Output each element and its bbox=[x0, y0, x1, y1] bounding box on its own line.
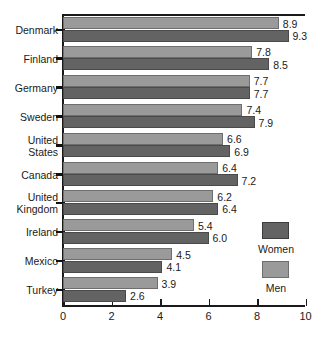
bar-men bbox=[63, 17, 279, 29]
bar-men bbox=[63, 219, 194, 231]
bar-group: Finland7.88.5 bbox=[0, 46, 324, 75]
category-label: Turkey bbox=[0, 284, 58, 296]
legend-swatch-men bbox=[262, 261, 289, 278]
category-label: Denmark bbox=[0, 24, 58, 36]
bar-value-women: 2.6 bbox=[130, 290, 145, 302]
bar-women bbox=[63, 261, 162, 273]
plot-top-border bbox=[62, 14, 305, 16]
bar-group: Germany7.77.7 bbox=[0, 75, 324, 104]
bar-women bbox=[63, 232, 209, 244]
bar-group: Canada6.47.2 bbox=[0, 162, 324, 191]
category-label: Germany bbox=[0, 82, 58, 94]
bar-men bbox=[63, 190, 213, 202]
bar-men bbox=[63, 75, 250, 87]
bar-value-women: 7.7 bbox=[254, 88, 269, 100]
bar-value-women: 6.0 bbox=[213, 232, 228, 244]
bar-group: United Kingdom6.26.4 bbox=[0, 190, 324, 219]
bar-value-women: 7.2 bbox=[242, 175, 257, 187]
bar-value-women: 9.3 bbox=[293, 30, 308, 42]
x-tick-label-6: 6 bbox=[194, 310, 224, 323]
category-label: Sweden bbox=[0, 111, 58, 123]
bar-men bbox=[63, 104, 242, 116]
x-tick-label-4: 4 bbox=[145, 310, 175, 323]
bar-women bbox=[63, 58, 269, 70]
bar-group: Sweden7.47.9 bbox=[0, 104, 324, 133]
bar-women bbox=[63, 290, 126, 302]
bar-men bbox=[63, 248, 172, 260]
bar-women bbox=[63, 116, 255, 128]
bar-value-men: 7.8 bbox=[256, 46, 271, 58]
bar-value-men: 8.9 bbox=[283, 18, 298, 30]
bar-value-women: 4.1 bbox=[166, 261, 181, 273]
bar-value-men: 5.4 bbox=[198, 220, 213, 232]
bar-value-men: 6.2 bbox=[217, 191, 232, 203]
legend-label-men: Men bbox=[251, 282, 301, 294]
bar-group: Denmark8.99.3 bbox=[0, 17, 324, 46]
bar-women bbox=[63, 30, 289, 42]
bar-value-men: 3.9 bbox=[162, 278, 177, 290]
bar-men bbox=[63, 46, 252, 58]
bar-value-women: 7.9 bbox=[259, 117, 274, 129]
bar-value-women: 6.4 bbox=[222, 203, 237, 215]
category-label: Canada bbox=[0, 169, 58, 181]
x-tick-label-0: 0 bbox=[48, 310, 78, 323]
x-tick-label-2: 2 bbox=[97, 310, 127, 323]
x-tick-label-10: 10 bbox=[291, 310, 321, 323]
bar-women bbox=[63, 203, 218, 215]
bar-value-men: 4.5 bbox=[176, 249, 191, 261]
bar-value-men: 6.6 bbox=[227, 133, 242, 145]
bar-women bbox=[63, 145, 230, 157]
bar-value-women: 8.5 bbox=[273, 59, 288, 71]
bar-women bbox=[63, 174, 238, 186]
bar-value-men: 6.4 bbox=[222, 162, 237, 174]
category-label: United States bbox=[0, 134, 58, 158]
bar-men bbox=[63, 162, 218, 174]
legend-label-women: Women bbox=[251, 243, 301, 255]
legend-swatch-women bbox=[262, 222, 289, 239]
bar-value-women: 6.9 bbox=[234, 146, 249, 158]
bar-men bbox=[63, 133, 223, 145]
category-label: Mexico bbox=[0, 255, 58, 267]
bar-men bbox=[63, 277, 158, 289]
x-tick-label-8: 8 bbox=[242, 310, 272, 323]
bar-women bbox=[63, 87, 250, 99]
category-label: Finland bbox=[0, 53, 58, 65]
bar-value-men: 7.7 bbox=[254, 75, 269, 87]
category-label: Ireland bbox=[0, 226, 58, 238]
category-label: United Kingdom bbox=[0, 191, 58, 215]
bar-value-men: 7.4 bbox=[246, 104, 261, 116]
bar-chart: 0246810 Denmark8.99.3Finland7.88.5German… bbox=[0, 0, 324, 342]
bar-group: United States6.66.9 bbox=[0, 133, 324, 162]
